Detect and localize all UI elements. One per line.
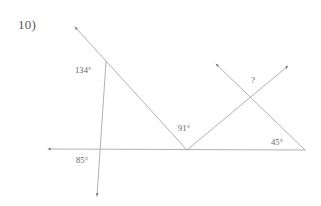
angle-label-45: 45° (271, 138, 283, 147)
geometry-diagram (0, 0, 321, 206)
angle-label-134: 134° (75, 66, 92, 75)
angle-label-85: 85° (76, 156, 88, 165)
angle-label-91: 91° (178, 124, 190, 133)
figure-canvas: 10) 134° 85° 91° 45° ? (0, 0, 321, 206)
angle-label-unknown: ? (251, 76, 255, 85)
long-diagonal-ray (75, 27, 187, 150)
near-vertical-ray (97, 62, 106, 196)
horizontal-base-ray (48, 149, 305, 150)
left-rising-ray (216, 64, 305, 150)
problem-number: 10) (18, 18, 36, 31)
